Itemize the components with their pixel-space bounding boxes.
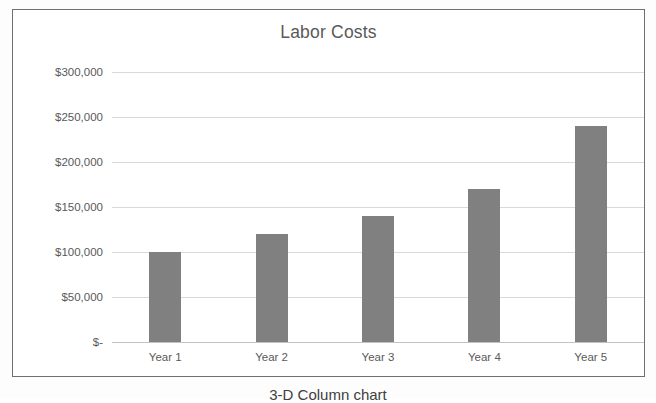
bar-slot: Year 5	[538, 72, 644, 342]
x-axis-tick-label: Year 2	[255, 351, 288, 363]
x-axis-tick-label: Year 3	[362, 351, 395, 363]
y-axis-tick-label: $-	[93, 336, 103, 348]
bar	[362, 216, 394, 342]
bar-slot: Year 3	[325, 72, 431, 342]
y-axis-tick-label: $150,000	[55, 201, 103, 213]
bar-slot: Year 1	[112, 72, 218, 342]
bar	[256, 234, 288, 342]
y-axis-tick-label: $50,000	[61, 291, 103, 303]
x-axis-tick-label: Year 1	[149, 351, 182, 363]
gridline	[112, 342, 644, 343]
y-axis-tick-label: $100,000	[55, 246, 103, 258]
x-axis-tick-label: Year 5	[574, 351, 607, 363]
bar	[575, 126, 607, 342]
y-axis-tick-label: $200,000	[55, 156, 103, 168]
y-axis-tick-label: $300,000	[55, 66, 103, 78]
chart-frame: Labor Costs $300,000$250,000$200,000$150…	[12, 9, 645, 377]
chart-title: Labor Costs	[13, 22, 644, 43]
bar	[468, 189, 500, 342]
bar-slot: Year 2	[218, 72, 324, 342]
x-axis-tick-label: Year 4	[468, 351, 501, 363]
plot-area: $300,000$250,000$200,000$150,000$100,000…	[112, 72, 644, 342]
y-axis-tick-label: $250,000	[55, 111, 103, 123]
figure-caption: 3-D Column chart	[0, 386, 656, 403]
bar-slot: Year 4	[431, 72, 537, 342]
bar	[149, 252, 181, 342]
